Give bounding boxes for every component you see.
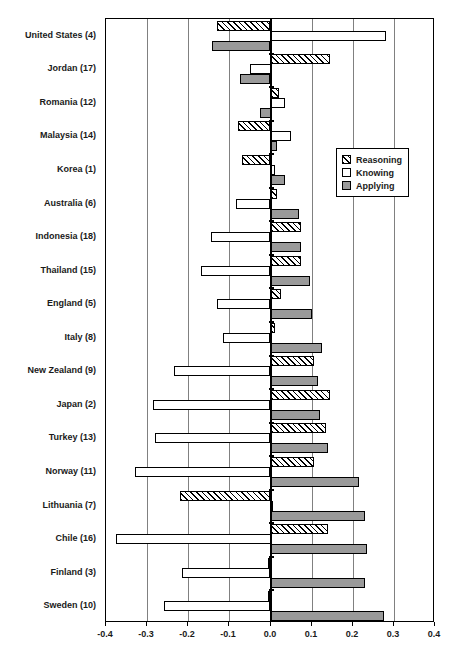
gray-swatch: [342, 181, 351, 190]
plot-area: [105, 18, 434, 622]
x-axis: -0.4-0.3-0.2-0.10.00.10.20.30.4: [105, 622, 434, 648]
x-tick-label: -0.1: [208, 629, 248, 639]
category-label: Thailand (15): [0, 265, 96, 275]
category-label: Indonesia (18): [0, 231, 96, 241]
legend-item-applying: Applying: [342, 179, 402, 192]
category-label: Malaysia (14): [0, 130, 96, 140]
category-label: Italy (8): [0, 332, 96, 342]
x-tick-mark: [270, 622, 271, 626]
category-label: England (5): [0, 298, 96, 308]
x-tick-label: -0.4: [85, 629, 125, 639]
legend-label: Reasoning: [356, 155, 402, 165]
category-label: Japan (2): [0, 399, 96, 409]
zero-axis-line: [270, 19, 272, 621]
category-label: Romania (12): [0, 97, 96, 107]
x-tick-mark: [434, 622, 435, 626]
hatched-swatch: [342, 155, 351, 164]
x-tick-label: -0.3: [126, 629, 166, 639]
category-label: Jordan (17): [0, 63, 96, 73]
category-label: Australia (6): [0, 198, 96, 208]
legend-item-reasoning: Reasoning: [342, 153, 402, 166]
legend-item-knowing: Knowing: [342, 166, 402, 179]
x-tick-mark: [187, 622, 188, 626]
open-swatch: [342, 168, 351, 177]
x-tick-mark: [352, 622, 353, 626]
x-tick-mark: [228, 622, 229, 626]
x-tick-mark: [146, 622, 147, 626]
x-tick-label: 0.0: [250, 629, 290, 639]
category-label: Sweden (10): [0, 600, 96, 610]
x-tick-label: 0.4: [414, 629, 452, 639]
category-label: New Zealand (9): [0, 365, 96, 375]
legend-label: Applying: [356, 181, 395, 191]
zero-line-layer: [106, 19, 433, 621]
category-label: Chile (16): [0, 533, 96, 543]
category-label: Finland (3): [0, 567, 96, 577]
x-tick-label: 0.2: [332, 629, 372, 639]
x-tick-mark: [393, 622, 394, 626]
category-label: Norway (11): [0, 466, 96, 476]
category-axis-labels: United States (4)Jordan (17)Romania (12)…: [0, 18, 100, 622]
category-label: Lithuania (7): [0, 500, 96, 510]
x-tick-mark: [105, 622, 106, 626]
legend-label: Knowing: [356, 168, 394, 178]
category-label: Turkey (13): [0, 432, 96, 442]
grouped-bar-chart: United States (4)Jordan (17)Romania (12)…: [0, 0, 452, 662]
category-label: Korea (1): [0, 164, 96, 174]
x-tick-label: -0.2: [167, 629, 207, 639]
category-label: United States (4): [0, 30, 96, 40]
x-tick-label: 0.3: [373, 629, 413, 639]
x-tick-mark: [311, 622, 312, 626]
chart-legend: ReasoningKnowingApplying: [336, 148, 409, 197]
x-tick-label: 0.1: [291, 629, 331, 639]
